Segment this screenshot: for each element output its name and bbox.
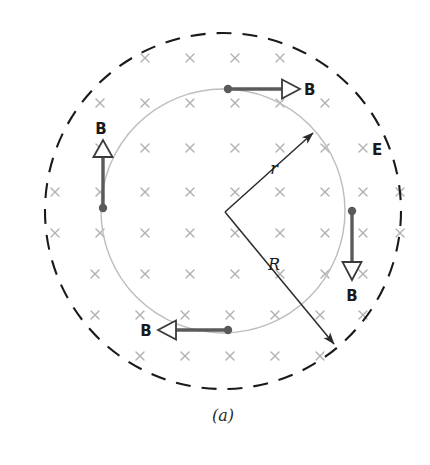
label-radius-R: R: [267, 255, 280, 274]
b-vector-right-head: [343, 262, 362, 280]
label-b-right: B: [346, 287, 357, 305]
b-vector-top-head: [282, 80, 300, 99]
b-vector-left-head: [94, 140, 113, 157]
label-e-field: E: [372, 141, 382, 159]
b-vector-bottom: [158, 321, 232, 340]
b-vector-left: [94, 140, 113, 212]
label-radius-r: r: [270, 159, 279, 178]
label-b-bottom: B: [140, 322, 151, 340]
label-b-top: B: [304, 81, 315, 99]
b-vector-bottom-head: [158, 321, 176, 340]
label-b-left: B: [95, 120, 106, 138]
inner-circle-r: [101, 89, 345, 333]
figure-caption: (a): [212, 406, 234, 425]
figure-container: B B B B E r R (a): [0, 0, 430, 465]
outer-dashed-circle-R: [45, 33, 401, 389]
field-diagram-svg: B B B B E r R (a): [0, 0, 430, 465]
